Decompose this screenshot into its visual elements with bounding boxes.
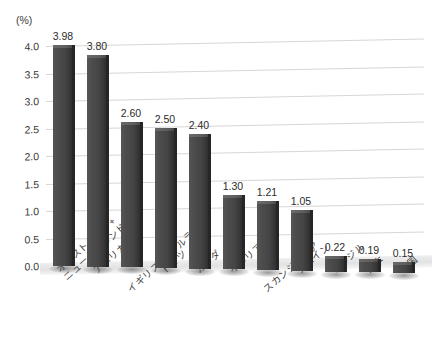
bar[interactable]: 2.60 bbox=[121, 125, 140, 268]
bar-top-face bbox=[189, 134, 208, 137]
bar-column[interactable]: 3.98 bbox=[53, 48, 72, 266]
y-axis-tick-label: 4.0 bbox=[24, 41, 39, 53]
bar-top-face bbox=[291, 210, 310, 213]
y-axis-tick-label: 0.5 bbox=[24, 233, 39, 245]
bar[interactable]: 1.21 bbox=[257, 204, 276, 270]
y-axis-tick-label: 1.5 bbox=[24, 178, 39, 190]
bar-top-face bbox=[393, 262, 412, 265]
plot-area: 0.00.51.01.52.02.53.03.54.0 3.983.802.60… bbox=[46, 30, 424, 266]
bar-side-face bbox=[378, 259, 381, 272]
bar-side-face bbox=[344, 256, 347, 271]
bar-side-face bbox=[174, 128, 177, 268]
bar-value-label: 0.19 bbox=[359, 244, 379, 256]
y-axis-unit-label: (%) bbox=[16, 14, 32, 26]
bar[interactable]: 0.15 bbox=[393, 265, 412, 273]
y-axis-tick-label: 2.5 bbox=[24, 123, 39, 135]
y-axis-tick-label: 1.0 bbox=[24, 205, 39, 217]
bar-value-label: 0.15 bbox=[393, 247, 413, 259]
bar-value-label: 1.05 bbox=[291, 195, 311, 207]
bar-value-label: 0.22 bbox=[325, 241, 345, 253]
bar-column[interactable]: 2.40 bbox=[189, 137, 208, 269]
bar-column[interactable]: 1.30 bbox=[223, 198, 242, 269]
bar-side-face bbox=[242, 195, 245, 269]
bar[interactable]: 2.40 bbox=[189, 137, 208, 269]
bar[interactable]: 3.80 bbox=[87, 58, 106, 267]
bar-top-face bbox=[155, 128, 174, 131]
caption-strip bbox=[0, 355, 437, 361]
bar-side-face bbox=[140, 122, 143, 268]
x-axis-category-labels: オーストラリア+ニュージーランドアメリカイギリス+アイルランドドイツカナダイタリ… bbox=[46, 268, 437, 361]
bar-column[interactable]: 0.15 bbox=[393, 265, 412, 273]
bar-side-face bbox=[276, 201, 279, 270]
y-axis-tick-label: 2.0 bbox=[24, 150, 39, 162]
y-axis-tick-label: 3.5 bbox=[24, 68, 39, 80]
bar[interactable]: 0.22 bbox=[325, 259, 344, 271]
bar-side-face bbox=[310, 210, 313, 271]
bar-top-face bbox=[325, 256, 344, 259]
bar-column[interactable]: 0.19 bbox=[359, 262, 378, 272]
bar-value-label: 3.80 bbox=[87, 40, 107, 52]
bar-top-face bbox=[359, 259, 378, 262]
bar-value-label: 1.21 bbox=[257, 186, 277, 198]
bar-value-label: 1.30 bbox=[223, 180, 243, 192]
bar-side-face bbox=[412, 262, 415, 273]
bar-chart: (%) 0.00.51.01.52.02.53.03.54.0 3.983.80… bbox=[0, 0, 437, 361]
bar[interactable]: 3.98 bbox=[53, 48, 72, 266]
bar[interactable]: 1.05 bbox=[291, 213, 310, 271]
bar-side-face bbox=[72, 45, 75, 266]
bar[interactable]: 0.19 bbox=[359, 262, 378, 272]
bar-value-label: 2.40 bbox=[189, 119, 209, 131]
bar-top-face bbox=[121, 122, 140, 125]
bar-column[interactable]: 3.80 bbox=[87, 58, 106, 267]
bar-column[interactable]: 1.21 bbox=[257, 204, 276, 270]
bar-column[interactable]: 1.05 bbox=[291, 213, 310, 271]
bar[interactable]: 2.50 bbox=[155, 131, 174, 268]
bar-column[interactable]: 0.22 bbox=[325, 259, 344, 271]
bar-value-label: 3.98 bbox=[53, 30, 73, 42]
bar-side-face bbox=[208, 134, 211, 269]
bar-top-face bbox=[257, 201, 276, 204]
y-axis-tick-label: 0.0 bbox=[24, 260, 39, 272]
bar-side-face bbox=[106, 55, 109, 267]
bar-top-face bbox=[223, 195, 242, 198]
y-axis-tick-label: 3.0 bbox=[24, 95, 39, 107]
bar-top-face bbox=[53, 45, 72, 48]
bar-top-face bbox=[87, 55, 106, 58]
bar-value-label: 2.60 bbox=[121, 107, 141, 119]
bar-value-label: 2.50 bbox=[155, 113, 175, 125]
bar[interactable]: 1.30 bbox=[223, 198, 242, 269]
bar-column[interactable]: 2.50 bbox=[155, 131, 174, 268]
bar-column[interactable]: 2.60 bbox=[121, 125, 140, 268]
